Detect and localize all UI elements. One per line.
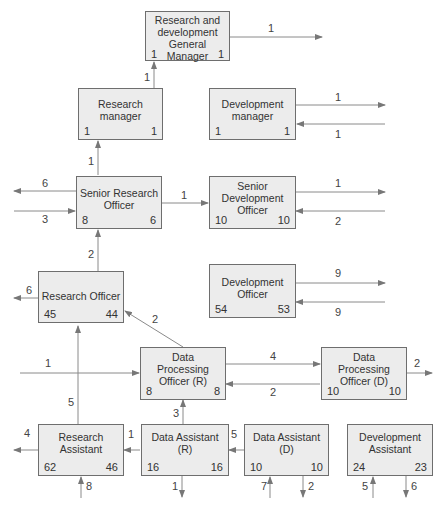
box-title: Senior Development Officer (210, 180, 295, 216)
flow-label-dm-out: 1 (335, 91, 341, 103)
box-title: Research and development General Manager (146, 14, 229, 62)
box-count-left: 10 (250, 461, 262, 473)
flow-label-ra-out: 4 (24, 427, 30, 439)
box-data-processing-officer-d: Data Processing Officer (D) 10 10 (321, 347, 407, 400)
flow-label-sdo-in: 2 (335, 215, 341, 227)
box-senior-development-officer: Senior Development Officer 10 10 (209, 176, 296, 229)
flow-label-do-in: 9 (335, 306, 341, 318)
flow-label-sro-in: 3 (42, 213, 48, 225)
box-count-left: 54 (215, 303, 227, 315)
box-count-left: 1 (215, 125, 221, 137)
box-data-processing-officer-r: Data Processing Officer (R) 8 8 (140, 347, 226, 400)
flow-label-dad-in: 7 (261, 480, 267, 492)
box-count-right: 10 (311, 461, 323, 473)
flow-label-dad-to-dar: 5 (231, 428, 237, 440)
flow-label-dpr-in: 1 (45, 357, 51, 369)
flow-label-ro-out: 6 (26, 284, 32, 296)
box-research-assistant: Research Assistant 62 46 (38, 424, 124, 476)
box-development-officer: Development Officer 54 53 (209, 264, 296, 318)
box-title: Data Processing Officer (R) (141, 351, 225, 387)
box-data-assistant-r: Data Assistant (R) 16 16 (141, 424, 229, 476)
flow-label-dpd-out: 2 (414, 357, 420, 369)
box-count-left: 62 (44, 461, 56, 473)
box-research-manager: Research manager 1 1 (78, 88, 163, 140)
box-title: Research Officer (39, 290, 123, 302)
flow-label-ra-in: 8 (86, 480, 92, 492)
flow-label-dar-out: 1 (172, 480, 178, 492)
flow-label-dar-to-dpr: 3 (173, 407, 179, 419)
flow-label-sdo-out: 1 (335, 177, 341, 189)
flow-label-sro-to-rm: 1 (88, 155, 94, 167)
box-count-right: 1 (284, 125, 290, 137)
flow-label-rm-to-gm: 1 (144, 71, 150, 83)
box-count-right: 10 (389, 385, 401, 397)
flow-label-da-in: 5 (362, 480, 368, 492)
flow-label-dpd-to-dpr: 2 (270, 386, 276, 398)
box-title: Senior Research Officer (77, 187, 161, 211)
flow-label-da-out: 6 (411, 480, 417, 492)
flow-label-do-out: 9 (335, 267, 341, 279)
box-count-right: 23 (415, 461, 427, 473)
box-count-left: 1 (151, 48, 157, 60)
flow-label-dar-to-ra: 1 (128, 428, 134, 440)
box-title: Data Assistant (R) (142, 431, 228, 455)
box-title: Development Officer (210, 276, 295, 300)
flow-label-ra-to-ro: 5 (68, 396, 74, 408)
box-title: Development manager (210, 98, 295, 122)
box-count-right: 6 (150, 214, 156, 226)
box-research-officer: Research Officer 45 44 (38, 271, 124, 323)
box-count-right: 10 (278, 214, 290, 226)
box-senior-research-officer: Senior Research Officer 8 6 (76, 176, 162, 229)
box-count-left: 8 (82, 214, 88, 226)
box-title: Development Assistant (348, 431, 432, 455)
box-title: Research Assistant (39, 431, 123, 455)
box-development-assistant: Development Assistant 24 23 (347, 424, 433, 476)
box-count-left: 45 (44, 308, 56, 320)
flow-label-dpr-to-dpd: 4 (270, 350, 276, 362)
box-count-right: 1 (218, 48, 224, 60)
flow-label-gm-out: 1 (268, 22, 274, 34)
box-count-left: 24 (353, 461, 365, 473)
flow-label-sro-to-sdo: 1 (181, 189, 187, 201)
box-title: Data Assistant (D) (245, 431, 328, 455)
box-count-right: 1 (151, 125, 157, 137)
flow-label-ro-to-sro: 2 (88, 248, 94, 260)
box-title: Research manager (79, 98, 162, 122)
box-count-right: 53 (278, 303, 290, 315)
box-general-manager: Research and development General Manager… (145, 11, 230, 61)
box-data-assistant-d: Data Assistant (D) 10 10 (244, 424, 329, 476)
flow-label-sro-out: 6 (42, 177, 48, 189)
box-count-left: 10 (215, 214, 227, 226)
box-development-manager: Development manager 1 1 (209, 88, 296, 140)
box-count-right: 44 (106, 308, 118, 320)
flow-label-dad-out: 2 (308, 480, 314, 492)
box-count-left: 1 (84, 125, 90, 137)
flow-label-dpr-to-ro: 2 (152, 313, 158, 325)
box-count-right: 46 (106, 461, 118, 473)
box-count-right: 16 (211, 461, 223, 473)
box-count-left: 16 (147, 461, 159, 473)
box-count-right: 8 (214, 385, 220, 397)
box-title: Data Processing Officer (D) (322, 351, 406, 387)
flow-label-dm-in: 1 (335, 128, 341, 140)
box-count-left: 8 (146, 385, 152, 397)
box-count-left: 10 (327, 385, 339, 397)
